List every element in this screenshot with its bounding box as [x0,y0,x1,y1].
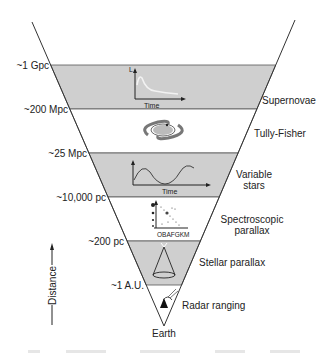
method-label-line: Spectroscopic [218,214,286,225]
distance-ladder-diagram: L Time Time OBAFGKM ~1 Gpc ~200 Mpc ~25 … [0,0,330,357]
method-label-line: parallax [218,225,286,236]
method-label-radar-ranging: Radar ranging [182,300,245,311]
band-supernovae [51,65,276,109]
time-axis-label: Time [144,100,159,111]
distance-label-1gpc: ~1 Gpc [16,60,49,71]
method-label-variable-stars: Variable stars [234,169,274,191]
distance-label-200pc: ~200 pc [88,236,124,247]
distance-label-200mpc: ~200 Mpc [24,104,68,115]
distance-axis-label: Distance [47,266,58,306]
method-label-supernovae: Supernovae [262,95,316,106]
method-label-line: Variable [234,169,274,180]
spectral-class-axis-label: OBAFGKM [157,229,190,240]
distance-label-1au: ~1 A.U. [111,280,144,291]
method-label-spectroscopic-parallax: Spectroscopic parallax [218,214,286,236]
method-label-line: stars [234,180,274,191]
earth-label: Earth [152,328,176,339]
method-label-stellar-parallax: Stellar parallax [199,257,265,268]
caption-fragment [28,350,300,353]
time-axis-label: Time [162,186,177,197]
luminosity-axis-label: L [129,64,133,75]
distance-label-25mpc: ~25 Mpc [48,148,87,159]
distance-label-10000pc: ~10,000 pc [56,192,106,203]
method-label-tully-fisher: Tully-Fisher [254,128,306,139]
